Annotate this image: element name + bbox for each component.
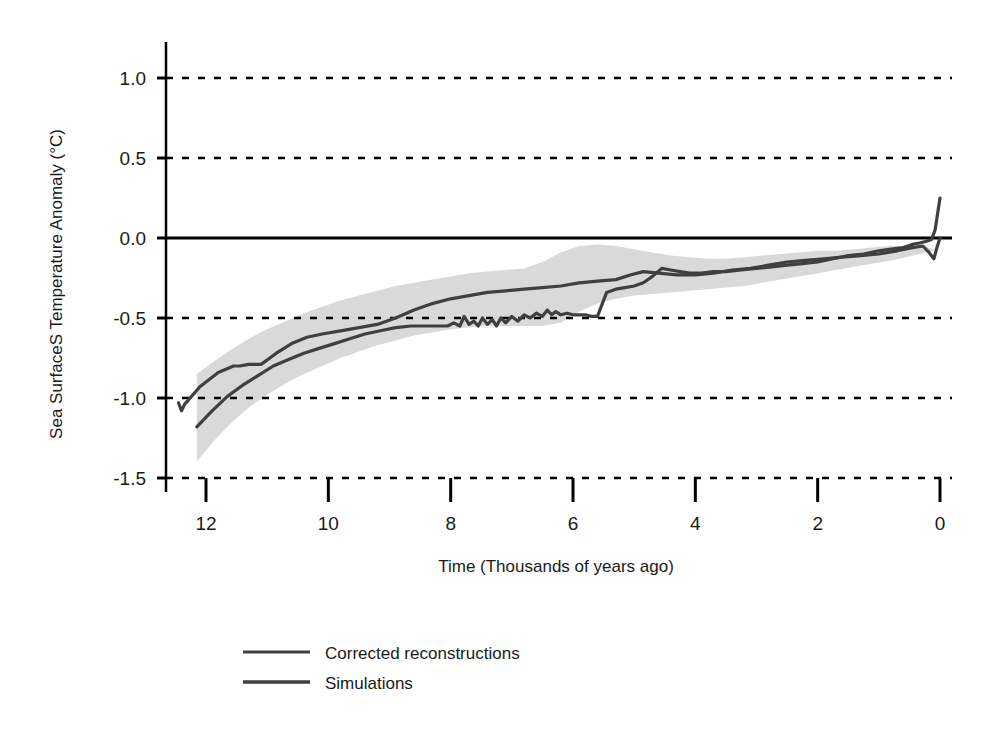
chart-background <box>0 0 994 736</box>
sea-surface-temperature-anomaly-chart: 1.00.50.0-0.5-1.0-1.5 121086420 Sea Surf… <box>0 0 994 736</box>
x-tick-label: 6 <box>568 513 579 534</box>
legend-label-simulations: Simulations <box>325 674 413 693</box>
y-tick-label: 0.0 <box>120 228 146 249</box>
x-tick-label: 12 <box>195 513 216 534</box>
y-tick-label: -0.5 <box>113 308 146 329</box>
y-tick-label: 1.0 <box>120 68 146 89</box>
y-tick-label: 0.5 <box>120 148 146 169</box>
x-tick-label: 0 <box>935 513 946 534</box>
x-tick-label: 8 <box>445 513 456 534</box>
y-axis-title: Sea SurfaceS Temperature Anomaly (°C) <box>47 129 66 439</box>
legend-label-corrected-reconstructions: Corrected reconstructions <box>325 644 520 663</box>
y-tick-label: -1.5 <box>113 468 146 489</box>
x-tick-label: 10 <box>318 513 339 534</box>
x-tick-label: 4 <box>690 513 701 534</box>
y-tick-label: -1.0 <box>113 388 146 409</box>
x-axis-title: Time (Thousands of years ago) <box>438 557 674 576</box>
x-tick-label: 2 <box>812 513 823 534</box>
chart-figure: 1.00.50.0-0.5-1.0-1.5 121086420 Sea Surf… <box>0 0 994 736</box>
